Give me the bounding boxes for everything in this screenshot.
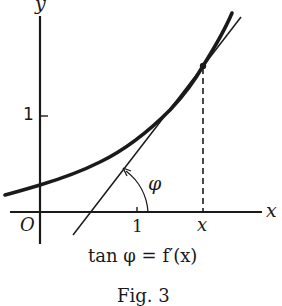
figure-caption: Fig. 3 — [117, 285, 170, 306]
y-axis-label: y — [35, 0, 46, 14]
x-point-label: x — [197, 214, 207, 235]
angle-phi-label: φ — [148, 172, 161, 194]
formula-caption: tan φ = f′(x) — [88, 245, 197, 266]
x-tick-label-1: 1 — [132, 216, 143, 236]
tangent-line — [73, 17, 241, 235]
x-axis-label: x — [266, 199, 277, 221]
origin-label: O — [20, 214, 35, 235]
y-tick-label-1: 1 — [23, 104, 34, 124]
angle-arc — [126, 171, 148, 212]
